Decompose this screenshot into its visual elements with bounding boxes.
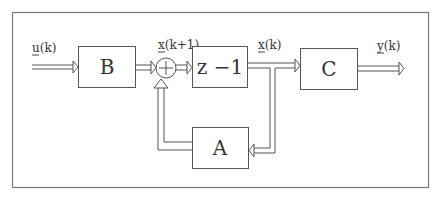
svg-text:y(k): y(k) (376, 39, 400, 53)
b-to-sum-arrow (135, 61, 156, 74)
state-signal-label: x(k) (258, 38, 281, 52)
block-c-label: C (321, 57, 336, 81)
input-arrow (32, 61, 78, 73)
block-b: B (79, 47, 136, 88)
summing-junction (156, 58, 176, 78)
output-signal-label: y(k) (376, 39, 400, 53)
block-delay-label: z −1 (197, 55, 243, 79)
svg-text:u(k): u(k) (32, 41, 56, 55)
block-a-label: A (212, 136, 228, 160)
state-feedback-branch (249, 68, 275, 157)
svg-text:x(k): x(k) (258, 38, 281, 52)
block-b-label: B (100, 55, 115, 79)
block-c: C (301, 49, 358, 90)
output-arrow (357, 62, 404, 75)
input-signal-label: u(k) (32, 41, 56, 55)
a-to-sum-feedback (154, 79, 192, 150)
block-a: A (193, 128, 249, 169)
block-diagram: u(k) B x(k+1) z −1 x(k) (0, 0, 439, 198)
sum-to-delay-arrow (176, 61, 192, 74)
delay-to-c-arrow (247, 59, 300, 72)
block-delay: z −1 (193, 47, 248, 88)
